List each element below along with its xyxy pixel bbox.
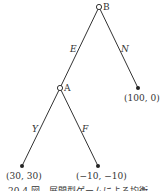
edge-E-label: E <box>70 44 77 54</box>
edge-Y <box>22 88 60 166</box>
node-A-label: A <box>64 83 71 93</box>
edge-E <box>60 7 99 88</box>
payoff-leaf-3: (−10, −10) <box>76 171 127 181</box>
leaf-dot-2 <box>20 164 24 168</box>
payoff-leaf-2: (30, 30) <box>6 171 42 181</box>
edge-F-label: F <box>82 124 88 134</box>
leaf-dot-3 <box>96 164 100 168</box>
node-A-circle <box>57 85 62 90</box>
edge-F <box>60 88 98 166</box>
figure-caption: 20-4 図 展開型ゲームによる均衡 <box>8 184 148 191</box>
node-B-label: B <box>103 2 110 12</box>
node-B-circle <box>96 4 101 9</box>
edge-N-label: N <box>121 44 129 54</box>
leaf-dot-1 <box>136 86 140 90</box>
edge-Y-label: Y <box>32 124 38 134</box>
payoff-leaf-1: (100, 0) <box>124 93 160 103</box>
edge-N <box>99 7 138 88</box>
